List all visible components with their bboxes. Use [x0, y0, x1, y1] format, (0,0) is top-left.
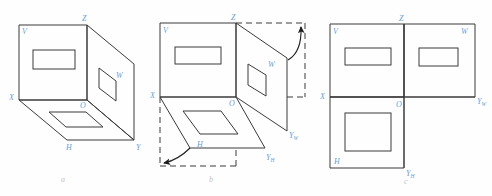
projection-planes-diagram: V Z X O W H Y V Z X O W H YW YH V Z W X …	[0, 0, 492, 196]
panel-b-label-yw: YW	[289, 131, 298, 141]
panel-c-label-z: Z	[399, 14, 404, 23]
panel-a-plane-h	[19, 100, 134, 140]
panel-a	[19, 25, 134, 140]
panel-a-w-window	[99, 68, 116, 101]
panel-c-w-window	[419, 48, 458, 66]
panel-a-v-window	[33, 50, 75, 69]
panel-c-label-v: V	[333, 27, 339, 36]
panel-b-label-z: Z	[231, 13, 236, 22]
panel-a-h-window	[49, 112, 103, 127]
panel-b-label-w: W	[268, 60, 276, 69]
panel-c-plane-h	[330, 97, 404, 168]
panel-b-plane-v	[160, 23, 236, 97]
panel-b-label-x: X	[149, 91, 156, 100]
panel-a-label-z: Z	[82, 14, 87, 23]
panel-b-label-yh: YH	[266, 153, 275, 163]
panel-c-label-o: O	[396, 100, 402, 109]
panel-a-label-h: H	[65, 143, 73, 152]
panel-c-label-yw: YW	[477, 97, 486, 107]
panel-b-plane-h	[160, 97, 265, 148]
panel-b-label-o: O	[229, 99, 235, 108]
panel-a-label-o: O	[80, 101, 86, 110]
panel-c-plane-v	[330, 24, 404, 97]
panel-b-h-window	[183, 111, 238, 134]
panel-b-plane-w	[236, 23, 287, 131]
panel-a-label-v: V	[22, 27, 28, 36]
panel-b-w-window	[248, 64, 266, 96]
panel-c-label-h: H	[333, 157, 341, 166]
panel-a-plane-v	[19, 25, 87, 100]
panel-b-label-v: V	[163, 26, 169, 35]
panel-a-plane-w	[87, 25, 134, 140]
panel-a-label-y: Y	[136, 143, 142, 152]
panel-c-h-window	[345, 113, 391, 151]
panel-a-label-x: X	[8, 93, 15, 102]
caption-c: c	[404, 177, 408, 186]
panel-c-label-w: W	[461, 27, 469, 36]
caption-a: a	[61, 175, 65, 184]
panel-c-label-x: X	[319, 92, 326, 101]
panel-c-axes	[330, 24, 475, 168]
panel-a-label-w: W	[116, 71, 124, 80]
panel-b-rotate-h-arrow	[164, 148, 190, 163]
figure-root: V Z X O W H Y V Z X O W H YW YH V Z W X …	[0, 0, 492, 196]
panel-b-v-window	[175, 47, 221, 64]
panel-c	[330, 24, 475, 168]
panel-b-rotate-w-arrow	[288, 27, 301, 60]
caption-b: b	[209, 175, 213, 184]
panel-c-v-window	[345, 48, 391, 65]
panel-b	[160, 23, 305, 166]
